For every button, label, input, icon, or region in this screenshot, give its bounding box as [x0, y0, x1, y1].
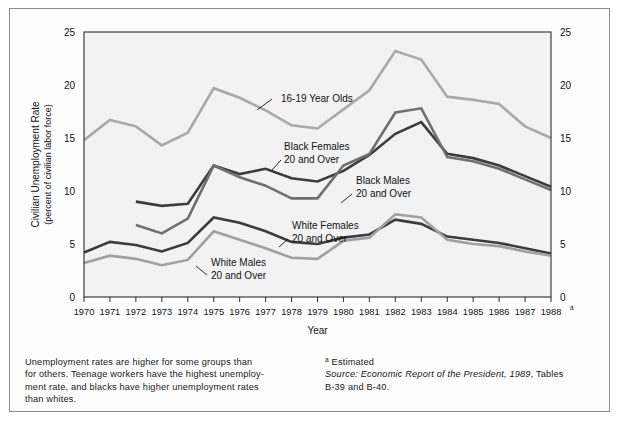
figure-notes: Unemployment rates are higher for some g… — [0, 352, 619, 414]
x-tick-label-1985: 1985 — [463, 307, 484, 317]
x-tick-label-1976: 1976 — [229, 307, 250, 317]
x-tick-label-1971: 1971 — [100, 307, 121, 317]
x-tick-label-1972: 1972 — [126, 307, 147, 317]
y-axis-title-line-1: Civilian Unemployment Rate — [30, 101, 41, 228]
series-label-2-line-2: 20 and Over — [356, 188, 412, 199]
note-right: a Estimated Source: Economic Report of t… — [325, 356, 597, 393]
x-tick-label-1983: 1983 — [411, 307, 432, 317]
x-axis-title: Year — [307, 325, 328, 336]
x-tick-label-1980: 1980 — [333, 307, 354, 317]
series-label-1-line-1: Black Females — [284, 141, 350, 152]
series-label-3-line-1: White Females — [292, 220, 359, 231]
series-label-0-line-1: 16-19 Year Olds — [281, 93, 353, 104]
series-label-2-line-1: Black Males — [356, 175, 410, 186]
x-tick-label-1978: 1978 — [281, 307, 302, 317]
y-axis-title: Civilian Unemployment Rate(percent of ci… — [30, 101, 53, 228]
chart-element: 5 — [69, 239, 75, 250]
series-label-4-line-1: White Males — [211, 257, 266, 268]
x-tick-label-1975: 1975 — [203, 307, 224, 317]
source-line-1: Source: Economic Report of the President… — [325, 368, 597, 380]
note-left-line-1: Unemployment rates are higher for some g… — [25, 356, 315, 368]
x-tick-label-1984: 1984 — [437, 307, 458, 317]
footnote-marker-icon: a — [325, 356, 329, 363]
series-label-1-line-2: 20 and Over — [284, 154, 340, 165]
x-axis: 1970197119721973197419751976197719781979… — [74, 297, 574, 317]
chart-element: 0 — [69, 292, 75, 303]
x-tick-label-1977: 1977 — [255, 307, 276, 317]
x-tick-footnote-marker: a — [570, 304, 574, 311]
source-citation: Source: Economic Report of the President… — [325, 369, 531, 379]
chart-element: 15 — [560, 133, 572, 144]
x-tick-label-1979: 1979 — [307, 307, 328, 317]
chart-element: 5 — [560, 239, 566, 250]
source-line-2: B-39 and B-40. — [325, 381, 597, 393]
x-tick-label-1970: 1970 — [74, 307, 95, 317]
chart-element: 15 — [64, 133, 76, 144]
x-tick-label-1973: 1973 — [151, 307, 172, 317]
source-tail: , Tables — [531, 369, 564, 379]
chart-element: 25 — [560, 27, 572, 38]
figure-container: 0055101015152020252519701971197219731974… — [0, 0, 619, 421]
chart-element: 20 — [560, 80, 572, 91]
chart-element: 25 — [64, 27, 76, 38]
chart-element: 10 — [64, 186, 76, 197]
note-left: Unemployment rates are higher for some g… — [25, 356, 315, 406]
x-tick-label-1986: 1986 — [489, 307, 510, 317]
chart-element: 0 — [560, 292, 566, 303]
chart-element: 20 — [64, 80, 76, 91]
x-tick-label-1987: 1987 — [515, 307, 536, 317]
x-tick-label-1988: 1988 — [541, 307, 562, 317]
y-axis-title-line-2: (percent of civilian labor force) — [43, 104, 53, 225]
x-tick-label-1974: 1974 — [177, 307, 198, 317]
footnote-estimated: a Estimated — [325, 356, 597, 368]
x-tick-label-1981: 1981 — [359, 307, 380, 317]
series-label-4-line-2: 20 and Over — [211, 270, 267, 281]
note-left-line-4: than whites. — [25, 393, 315, 405]
note-left-line-2: for others. Teenage workers have the hig… — [25, 368, 315, 380]
footnote-text: Estimated — [332, 357, 375, 367]
chart-element: 10 — [560, 186, 572, 197]
series-label-3-line-2: 20 and Over — [292, 233, 348, 244]
note-left-line-3: ment rate, and blacks have higher unempl… — [25, 381, 315, 393]
x-tick-label-1982: 1982 — [385, 307, 406, 317]
